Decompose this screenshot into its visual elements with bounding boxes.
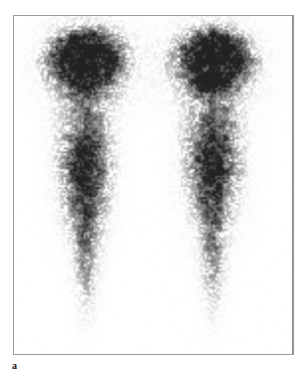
figure-root: a	[0, 0, 308, 378]
scintigram-image	[14, 16, 293, 354]
scintigram-frame	[13, 15, 294, 355]
panel-letter: a	[12, 360, 17, 372]
